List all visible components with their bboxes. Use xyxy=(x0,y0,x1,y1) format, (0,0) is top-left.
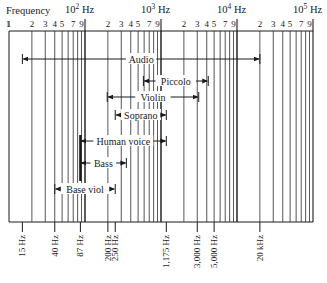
decade-label: 102 Hz xyxy=(65,2,94,15)
minor-tick-label: 2 xyxy=(182,19,187,29)
minor-tick-label: 4 xyxy=(281,19,286,29)
minor-tick-label: 5 xyxy=(212,19,217,29)
minor-tick-label: 4 xyxy=(129,19,134,29)
range-piccolo: Piccolo xyxy=(143,75,208,87)
range-label: Soprano xyxy=(124,110,157,121)
range-audio: Audio xyxy=(22,53,259,65)
frequency-range-chart: 1234579234579234579234579102 Hz103 Hz104… xyxy=(0,0,327,283)
minor-tick-label: 3 xyxy=(119,19,124,29)
marker-label: 15 Hz xyxy=(17,235,27,257)
decade-label: 103 Hz xyxy=(141,2,170,15)
minor-tick-label: 3 xyxy=(43,19,48,29)
minor-tick-label: 3 xyxy=(195,19,200,29)
axis-labels: 1234579234579234579234579102 Hz103 Hz104… xyxy=(6,2,323,29)
range-bars: AudioPiccoloViolinSopranoHuman voiceBass… xyxy=(22,53,259,195)
range-label: Violin xyxy=(140,92,165,103)
minor-tick-label: 7 xyxy=(223,19,228,29)
bottom-markers: 15 Hz40 Hz87 Hz200 Hz250 Hz1,175 Hz3,000… xyxy=(17,222,264,268)
minor-tick-label: 5 xyxy=(60,19,65,29)
minor-tick-label: 7 xyxy=(71,19,76,29)
marker-label: 87 Hz xyxy=(75,235,85,257)
marker-label: 1,175 Hz xyxy=(161,235,171,268)
marker-label: 40 Hz xyxy=(50,235,60,257)
minor-tick-label: 9 xyxy=(155,19,160,29)
range-bass: Bass xyxy=(80,157,126,169)
minor-tick-label: 7 xyxy=(147,19,152,29)
minor-tick-label: 4 xyxy=(53,19,58,29)
minor-tick-label: 7 xyxy=(299,19,304,29)
range-label: Base viol xyxy=(66,184,104,195)
marker-label: 5,000 Hz xyxy=(209,235,219,268)
minor-tick-label: 9 xyxy=(307,19,312,29)
minor-tick-label: 9 xyxy=(79,19,84,29)
minor-tick-label: 2 xyxy=(30,19,35,29)
range-label: Human voice xyxy=(97,136,151,147)
range-label: Piccolo xyxy=(161,76,191,87)
range-soprano: Soprano xyxy=(115,109,166,121)
marker-label: 3,000 Hz xyxy=(192,235,202,268)
minor-tick-label: 5 xyxy=(136,19,141,29)
minor-tick-label: 2 xyxy=(106,19,111,29)
minor-tick-label: 9 xyxy=(231,19,236,29)
range-base-viol: Base viol xyxy=(55,183,115,195)
minor-tick-label: 5 xyxy=(288,19,293,29)
decade-label: 105 Hz xyxy=(293,2,322,15)
minor-tick-label: 2 xyxy=(258,19,263,29)
range-label: Audio xyxy=(129,54,154,65)
marker-label: 250 Hz xyxy=(110,235,120,261)
range-label: Bass xyxy=(94,158,113,169)
decade-label: 104 Hz xyxy=(217,2,246,15)
minor-tick-label: 4 xyxy=(205,19,210,29)
minor-tick-label: 3 xyxy=(271,19,276,29)
marker-label: 20 kHz xyxy=(255,235,265,261)
frequency-label: Frequency xyxy=(6,5,51,16)
svg-text:1: 1 xyxy=(6,19,11,29)
